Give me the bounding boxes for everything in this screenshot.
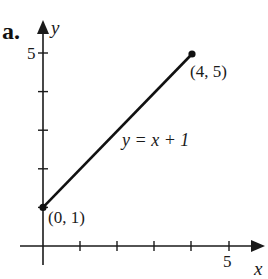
equation-label: y = x + 1 xyxy=(120,130,189,150)
endpoint-end xyxy=(188,50,195,57)
endpoint-start xyxy=(39,204,46,211)
point-label-start: (0, 1) xyxy=(48,208,85,227)
x-axis-arrow-icon xyxy=(251,240,265,252)
y-tick-label-5: 5 xyxy=(27,44,36,63)
x-axis-label: x xyxy=(253,258,263,279)
part-label: a. xyxy=(2,18,20,44)
x-tick-label-5: 5 xyxy=(223,252,232,271)
y-axis-label: y xyxy=(49,17,60,38)
graph: a. y x 5 5 (0, 1) (4, 5) y = x + 1 xyxy=(0,0,268,279)
point-label-end: (4, 5) xyxy=(190,62,227,81)
y-axis-arrow-icon xyxy=(37,20,49,34)
